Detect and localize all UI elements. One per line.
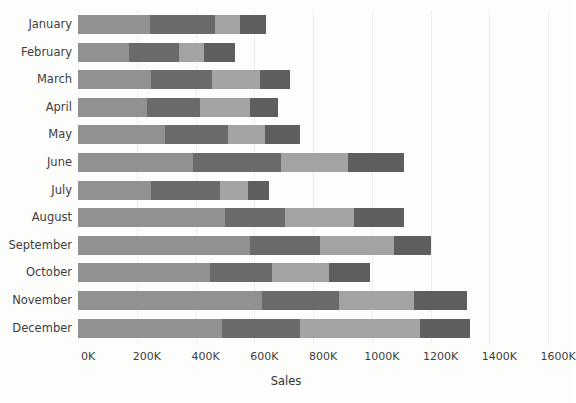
- bar-row[interactable]: [78, 70, 290, 89]
- bar-segment[interactable]: [225, 208, 285, 227]
- bar-segment[interactable]: [272, 263, 329, 282]
- gridline: [548, 10, 549, 345]
- bar-segment[interactable]: [78, 43, 129, 62]
- bar-segment[interactable]: [150, 15, 215, 34]
- x-axis-tick-label: 400K: [191, 350, 219, 363]
- bar-segment[interactable]: [78, 263, 210, 282]
- x-axis-title: Sales: [0, 374, 572, 388]
- y-axis-label: January: [0, 15, 72, 34]
- plot-area: [78, 10, 548, 345]
- bar-segment[interactable]: [250, 236, 321, 255]
- x-axis-tick-label: 600K: [250, 350, 278, 363]
- bar-segment[interactable]: [78, 15, 150, 34]
- bar-segment[interactable]: [147, 98, 200, 117]
- y-axis-label: October: [0, 263, 72, 282]
- bar-segment[interactable]: [151, 70, 211, 89]
- bar-row[interactable]: [78, 153, 404, 172]
- bar-segment[interactable]: [78, 125, 165, 144]
- y-axis-label: February: [0, 43, 72, 62]
- bar-row[interactable]: [78, 98, 278, 117]
- bar-segment[interactable]: [354, 208, 404, 227]
- x-axis-tick-label: 1200K: [423, 350, 458, 363]
- bar-segment[interactable]: [179, 43, 204, 62]
- bar-segment[interactable]: [260, 70, 289, 89]
- bar-row[interactable]: [78, 125, 300, 144]
- bar-segment[interactable]: [165, 125, 228, 144]
- bar-segment[interactable]: [414, 291, 467, 310]
- y-axis-label: May: [0, 125, 72, 144]
- bar-segment[interactable]: [300, 319, 420, 338]
- bar-segment[interactable]: [193, 153, 281, 172]
- y-axis-label: September: [0, 236, 72, 255]
- bar-segment[interactable]: [285, 208, 354, 227]
- bar-row[interactable]: [78, 263, 370, 282]
- bar-segment[interactable]: [329, 263, 370, 282]
- x-axis-tick-label: 800K: [309, 350, 337, 363]
- bar-segment[interactable]: [78, 153, 193, 172]
- bar-segment[interactable]: [204, 43, 235, 62]
- bar-segment[interactable]: [78, 208, 225, 227]
- y-axis-label: December: [0, 319, 72, 338]
- x-axis-tick-label: 1400K: [482, 350, 517, 363]
- bar-row[interactable]: [78, 208, 404, 227]
- bar-segment[interactable]: [265, 125, 300, 144]
- bar-row[interactable]: [78, 291, 467, 310]
- bar-segment[interactable]: [78, 98, 147, 117]
- bar-segment[interactable]: [222, 319, 300, 338]
- bar-segment[interactable]: [78, 70, 151, 89]
- bar-segment[interactable]: [348, 153, 404, 172]
- bar-segment[interactable]: [262, 291, 340, 310]
- bar-segment[interactable]: [220, 181, 248, 200]
- bar-segment[interactable]: [250, 98, 278, 117]
- bar-segment[interactable]: [200, 98, 250, 117]
- bar-segment[interactable]: [320, 236, 393, 255]
- bar-segment[interactable]: [129, 43, 179, 62]
- x-axis-tick-label: 200K: [133, 350, 161, 363]
- bar-segment[interactable]: [339, 291, 414, 310]
- y-axis-label: June: [0, 153, 72, 172]
- bar-segment[interactable]: [420, 319, 470, 338]
- bar-segment[interactable]: [212, 70, 260, 89]
- y-axis-label: November: [0, 291, 72, 310]
- bar-segment[interactable]: [394, 236, 431, 255]
- bar-segment[interactable]: [240, 15, 266, 34]
- bar-segment[interactable]: [215, 15, 240, 34]
- bar-segment[interactable]: [210, 263, 272, 282]
- bar-row[interactable]: [78, 15, 266, 34]
- x-axis-tick-label: 0K: [81, 350, 95, 363]
- y-axis-label: March: [0, 70, 72, 89]
- y-axis-label: April: [0, 98, 72, 117]
- bar-row[interactable]: [78, 236, 431, 255]
- bar-row[interactable]: [78, 43, 235, 62]
- bar-segment[interactable]: [78, 181, 151, 200]
- bar-segment[interactable]: [78, 319, 222, 338]
- bar-segment[interactable]: [228, 125, 265, 144]
- x-axis-tick-label: 1000K: [364, 350, 399, 363]
- bar-segment[interactable]: [78, 236, 250, 255]
- gridline: [489, 10, 490, 345]
- bar-segment[interactable]: [151, 181, 219, 200]
- bar-segment[interactable]: [281, 153, 349, 172]
- bar-row[interactable]: [78, 319, 470, 338]
- y-axis-label: August: [0, 208, 72, 227]
- bar-segment[interactable]: [78, 291, 262, 310]
- bar-segment[interactable]: [248, 181, 269, 200]
- y-axis-label: July: [0, 181, 72, 200]
- x-axis-tick-label: 1600K: [540, 350, 575, 363]
- bar-row[interactable]: [78, 181, 269, 200]
